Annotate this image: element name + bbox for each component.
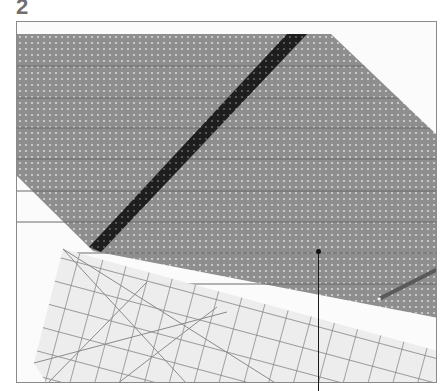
callout-pointer-dot [316, 249, 321, 254]
illustration-frame [16, 21, 437, 383]
illustration [17, 22, 437, 383]
step-number: 2 [16, 0, 28, 18]
callout-pointer-line [318, 251, 319, 391]
